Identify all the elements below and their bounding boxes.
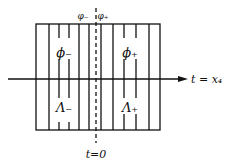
region-box [36,24,160,130]
label-region-right-upper: ϕ₊ [122,45,138,60]
label-origin: t=0 [86,148,107,161]
label-region-left-lower: Λ₋ [55,100,72,115]
diagram-canvas: φ₋ φ₊ ϕ₋ ϕ₊ Λ₋ Λ₊ t = x₄ t=0 [0,0,228,164]
axis-arrow-icon [178,76,188,82]
label-region-left-upper: ϕ₋ [56,45,72,60]
label-phi-plus-top: φ₊ [97,11,108,21]
label-axis: t = x₄ [191,73,222,86]
label-region-right-lower: Λ₊ [121,100,138,115]
label-phi-minus-top: φ₋ [77,11,88,21]
